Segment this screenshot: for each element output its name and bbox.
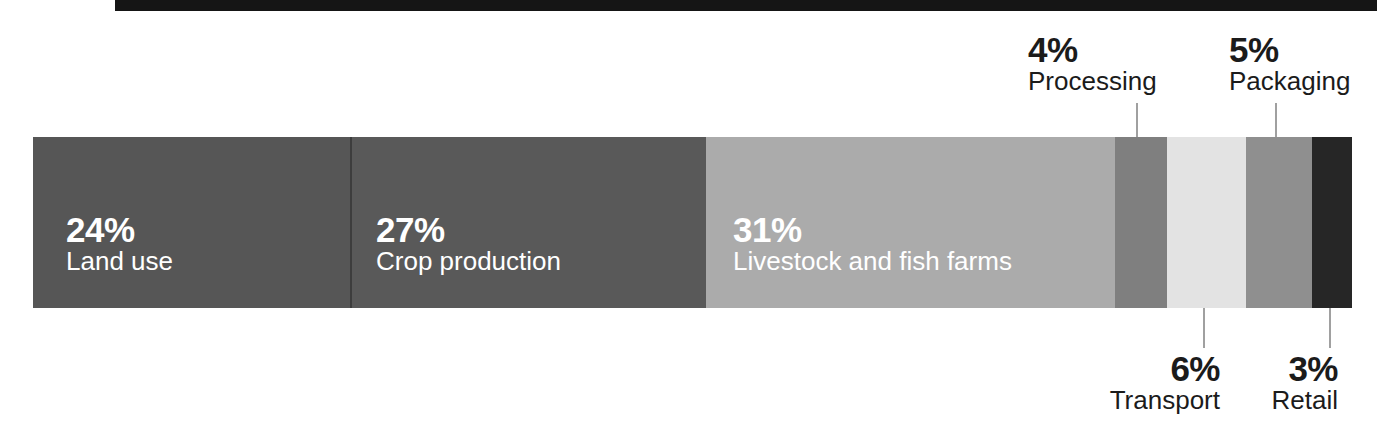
leader-line-packaging xyxy=(1275,103,1277,137)
bar-segment-processing xyxy=(1115,137,1168,308)
leader-line-retail xyxy=(1329,308,1331,348)
segment-label-crop-production: 27% Crop production xyxy=(376,212,561,275)
category-label: Land use xyxy=(66,247,173,275)
percent-value: 4% xyxy=(1028,32,1157,67)
category-label: Retail xyxy=(1272,386,1338,414)
percent-value: 27% xyxy=(376,212,561,247)
bar-segment-transport xyxy=(1167,137,1246,308)
stacked-bar xyxy=(33,137,1352,308)
percent-value: 24% xyxy=(66,212,173,247)
callout-transport: 6% Transport xyxy=(1110,351,1220,414)
category-label: Crop production xyxy=(376,247,561,275)
bar-segment-retail xyxy=(1312,137,1352,308)
category-label: Transport xyxy=(1110,386,1220,414)
segment-label-land-use: 24% Land use xyxy=(66,212,173,275)
callout-packaging: 5% Packaging xyxy=(1229,32,1350,95)
percent-value: 5% xyxy=(1229,32,1350,67)
leader-line-transport xyxy=(1203,308,1205,348)
scan-edge-artifact xyxy=(115,0,1377,11)
callout-processing: 4% Processing xyxy=(1028,32,1157,95)
callout-retail: 3% Retail xyxy=(1272,351,1338,414)
leader-line-processing xyxy=(1136,103,1138,137)
percent-value: 3% xyxy=(1272,351,1338,386)
percent-value: 6% xyxy=(1110,351,1220,386)
percent-value: 31% xyxy=(733,212,1012,247)
bar-segment-packaging xyxy=(1246,137,1312,308)
category-label: Packaging xyxy=(1229,67,1350,95)
segment-label-livestock-and-fish-farms: 31% Livestock and fish farms xyxy=(733,212,1012,275)
chart-canvas: 24% Land use 27% Crop production 31% Liv… xyxy=(0,0,1377,435)
category-label: Processing xyxy=(1028,67,1157,95)
category-label: Livestock and fish farms xyxy=(733,247,1012,275)
